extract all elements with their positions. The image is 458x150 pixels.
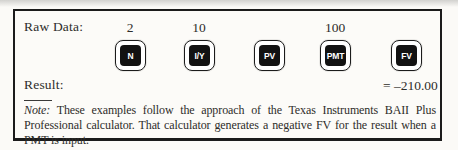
key-pmt-label: PMT	[325, 45, 346, 66]
calculator-key-fv: FV	[391, 40, 422, 71]
input-value-pmt: 100	[307, 20, 363, 36]
calculator-key-n: N	[115, 40, 146, 71]
calculator-key-pmt: PMT	[320, 40, 351, 71]
raw-data-label: Raw Data:	[24, 19, 83, 35]
input-value-n: 2	[102, 20, 158, 36]
scan-artifact	[0, 0, 458, 7]
note-prefix: Note:	[24, 103, 50, 117]
key-n-label: N	[120, 45, 141, 66]
result-value: = –210.00	[383, 78, 438, 94]
key-iy-label: I/Y	[189, 45, 210, 66]
calculator-key-pv: PV	[254, 40, 285, 71]
calculator-example-figure: Raw Data: 2 10 100 N I/Y PV PMT FV Resul…	[13, 9, 442, 141]
scanned-document-page: Raw Data: 2 10 100 N I/Y PV PMT FV Resul…	[0, 0, 458, 150]
key-fv-label: FV	[396, 45, 417, 66]
input-value-iy: 10	[171, 20, 227, 36]
calculator-key-iy: I/Y	[184, 40, 215, 71]
note-text: Note: These examples follow the approach…	[24, 103, 436, 147]
note-body: These examples follow the approach of th…	[24, 103, 436, 147]
footnote-rule	[24, 100, 52, 101]
result-label: Result:	[24, 77, 64, 93]
key-pv-label: PV	[259, 45, 280, 66]
